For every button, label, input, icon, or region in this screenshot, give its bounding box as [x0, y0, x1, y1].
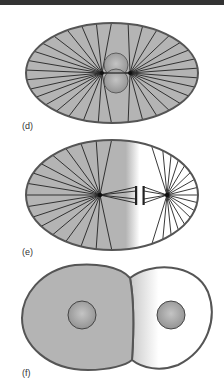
- panel-label-e: (e): [22, 247, 33, 257]
- cell-division-diagram: [0, 0, 224, 385]
- panel-label-d: (d): [22, 121, 33, 131]
- spindle-pole-right: [165, 193, 169, 197]
- panel-f-cells: [22, 264, 212, 370]
- panel-e-cell: [24, 138, 200, 251]
- nucleus-left: [68, 301, 96, 329]
- panel-d-cell: [24, 20, 200, 126]
- panel-label-f: (f): [22, 368, 31, 378]
- nucleus-right: [157, 301, 185, 329]
- spindle-pole-left: [98, 193, 102, 197]
